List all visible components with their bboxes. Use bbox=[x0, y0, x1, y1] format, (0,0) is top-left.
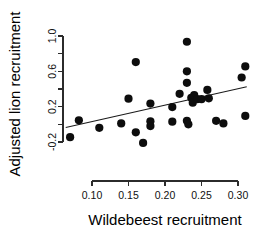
y-tick-label-0: 1.0 bbox=[46, 29, 58, 44]
data-point-15 bbox=[183, 67, 191, 75]
x-tick-label-0: 0.10 bbox=[82, 189, 103, 201]
data-point-13 bbox=[176, 90, 184, 98]
data-point-23 bbox=[197, 95, 205, 103]
data-point-25 bbox=[205, 94, 213, 102]
data-point-1 bbox=[75, 116, 83, 124]
x-tick-label-2: 0.20 bbox=[155, 189, 176, 201]
data-point-6 bbox=[132, 128, 140, 136]
data-point-16 bbox=[183, 79, 191, 87]
data-point-27 bbox=[219, 119, 227, 127]
data-point-28 bbox=[238, 73, 246, 81]
x-tick-label-1: 0.15 bbox=[118, 189, 139, 201]
data-point-18 bbox=[184, 120, 192, 128]
data-point-14 bbox=[183, 38, 191, 46]
data-point-24 bbox=[203, 86, 211, 94]
data-point-30 bbox=[241, 112, 249, 120]
data-point-7 bbox=[139, 139, 147, 147]
data-point-0 bbox=[66, 133, 74, 141]
y-tick-label-1: 0.6 bbox=[46, 64, 58, 79]
data-point-3 bbox=[117, 119, 125, 127]
x-axis-title: Wildebeest recruitment bbox=[88, 211, 242, 228]
tick-labels-group: 0.100.150.200.250.301.00.60.2-0.2 bbox=[46, 29, 249, 201]
data-point-5 bbox=[132, 58, 140, 66]
data-point-2 bbox=[95, 124, 103, 132]
y-axis-title: Adjusted lion recruitment bbox=[6, 11, 23, 177]
data-point-12 bbox=[168, 118, 176, 126]
x-tick-label-3: 0.25 bbox=[191, 189, 212, 201]
data-point-4 bbox=[124, 95, 132, 103]
data-point-11 bbox=[168, 103, 176, 111]
x-tick-label-4: 0.30 bbox=[228, 189, 249, 201]
y-tick-label-3: -0.2 bbox=[46, 133, 58, 151]
data-point-8 bbox=[146, 99, 154, 107]
data-point-29 bbox=[241, 62, 249, 70]
data-point-26 bbox=[212, 117, 220, 125]
scatter-plot-figure: 0.100.150.200.250.301.00.60.2-0.2 Wildeb… bbox=[0, 0, 264, 242]
chart-canvas: 0.100.150.200.250.301.00.60.2-0.2 Wildeb… bbox=[0, 0, 264, 242]
data-point-10 bbox=[146, 122, 154, 130]
y-tick-label-2: 0.2 bbox=[46, 99, 58, 114]
axes-group bbox=[58, 36, 238, 186]
